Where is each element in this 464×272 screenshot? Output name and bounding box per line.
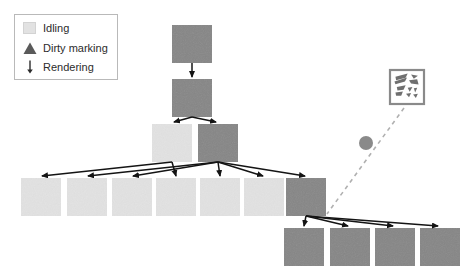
tree-node-dirty[interactable] xyxy=(172,79,212,117)
legend-label-dirty-marking: Dirty marking xyxy=(43,42,108,54)
pointer-trail-group xyxy=(327,108,404,214)
tree-node-dirty[interactable] xyxy=(172,25,212,63)
render-edge xyxy=(218,162,220,176)
tree-node-dirty[interactable] xyxy=(284,228,324,266)
render-edge xyxy=(192,117,216,122)
render-edge xyxy=(218,162,263,176)
pointer-trail-line xyxy=(327,108,404,214)
tree-node-dirty[interactable] xyxy=(420,228,460,266)
tree-node-dirty[interactable] xyxy=(330,228,370,266)
legend-item-dirty-marking: Dirty marking xyxy=(22,39,108,57)
tree-node-dirty[interactable] xyxy=(286,178,326,216)
render-edge xyxy=(218,162,305,176)
down-arrow-icon xyxy=(22,59,38,75)
pointer-trail-marker-icon xyxy=(359,136,373,150)
triangle-marker-icon xyxy=(22,40,38,56)
legend-item-rendering: Rendering xyxy=(22,58,94,76)
legend-item-idling: Idling xyxy=(22,19,69,37)
tree-node-idle[interactable] xyxy=(21,178,61,216)
legend: Idling Dirty marking Rendering xyxy=(14,14,118,80)
diagram-canvas: Idling Dirty marking Rendering xyxy=(0,0,464,272)
tile-thumbnail-group xyxy=(390,70,424,104)
legend-label-rendering: Rendering xyxy=(43,61,94,73)
tree-node-idle[interactable] xyxy=(200,178,240,216)
tree-node-idle[interactable] xyxy=(152,124,192,162)
tile-thumbnail-frame[interactable] xyxy=(390,70,424,104)
tree-node-idle[interactable] xyxy=(244,178,284,216)
render-edge xyxy=(174,117,192,122)
tree-node-idle[interactable] xyxy=(67,178,107,216)
light-square-swatch-icon xyxy=(22,20,38,36)
legend-label-idling: Idling xyxy=(43,22,69,34)
tree-node-idle[interactable] xyxy=(156,178,196,216)
render-edge xyxy=(304,216,306,226)
tree-node-idle[interactable] xyxy=(112,178,152,216)
tree-node-dirty[interactable] xyxy=(375,228,415,266)
tree-node-dirty[interactable] xyxy=(198,124,238,162)
